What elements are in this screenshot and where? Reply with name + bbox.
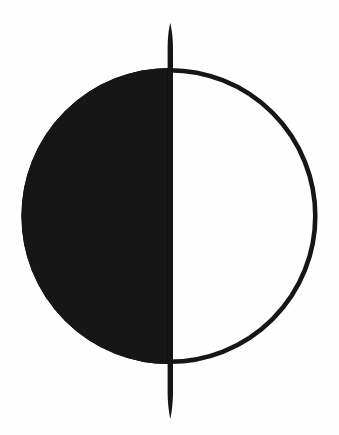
vertical-axis-line: [168, 23, 173, 419]
first-quarter-moon-icon: [0, 0, 339, 435]
page-background: [0, 0, 339, 435]
